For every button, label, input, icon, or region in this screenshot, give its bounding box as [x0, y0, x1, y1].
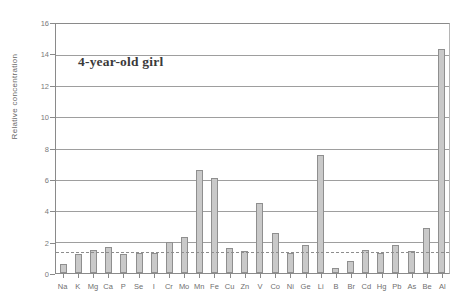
x-axis-tick-mark [230, 274, 231, 278]
x-axis-tick-slot [207, 274, 222, 280]
bar-slot [192, 24, 207, 273]
x-axis-tick-label: V [252, 282, 267, 298]
x-axis-tick-label: Mg [85, 282, 100, 298]
bar-P [120, 254, 127, 273]
bar-slot [71, 24, 86, 273]
x-axis-tick-mark [93, 274, 94, 278]
x-axis-tick-slot [177, 274, 192, 280]
x-axis-tick-slot [101, 274, 116, 280]
x-axis-tick-label: Al [435, 282, 450, 298]
x-axis-tick-label: Br [344, 282, 359, 298]
bar-Hg [377, 253, 384, 273]
y-axis-tick-label: 12 [27, 81, 49, 90]
x-axis-tick-label: Be [420, 282, 435, 298]
x-axis-tick-slot [161, 274, 176, 280]
x-axis-tick-slot [131, 274, 146, 280]
bar-Mn [196, 170, 203, 273]
x-axis-tick-slot [116, 274, 131, 280]
x-axis-tick-mark [427, 274, 428, 278]
bar-slot [343, 24, 358, 273]
bar-V [256, 203, 263, 273]
x-axis-tick-slot [146, 274, 161, 280]
bar-slot [298, 24, 313, 273]
x-axis-tick-slot [70, 274, 85, 280]
x-axis-tick-label: Ni [283, 282, 298, 298]
x-axis-tick-label: Co [268, 282, 283, 298]
y-axis-tick-label: 14 [27, 50, 49, 59]
x-axis-tick-label: Mn [192, 282, 207, 298]
bar-slot [237, 24, 252, 273]
bar-Br [347, 261, 354, 273]
bar-slot [434, 24, 449, 273]
bar-slot [283, 24, 298, 273]
x-axis-tick-label: Ca [101, 282, 116, 298]
bar-slot [147, 24, 162, 273]
x-axis-tick-label: Cu [222, 282, 237, 298]
bar-slot [328, 24, 343, 273]
y-axis-tick-label: 6 [27, 175, 49, 184]
x-axis-tick-mark [321, 274, 322, 278]
x-axis-tick-slot [359, 274, 374, 280]
x-axis-tick-mark [169, 274, 170, 278]
x-axis-tick-mark [123, 274, 124, 278]
bar-slot [222, 24, 237, 273]
x-axis-tick-label: Li [313, 282, 328, 298]
x-axis-tick-mark [366, 274, 367, 278]
x-axis-tick-slot [344, 274, 359, 280]
x-axis-tick-label: Na [55, 282, 70, 298]
bar-Cr [166, 242, 173, 273]
x-axis-tick-label: Se [131, 282, 146, 298]
x-axis-tick-mark [397, 274, 398, 278]
x-axis-tick-label: I [146, 282, 161, 298]
x-axis-tick-slot [420, 274, 435, 280]
y-axis-tick-label: 16 [27, 19, 49, 28]
x-axis-tick-mark [154, 274, 155, 278]
x-axis-tick-mark [214, 274, 215, 278]
reference-line [56, 252, 449, 253]
bar-Se [136, 253, 143, 273]
bar-slot [404, 24, 419, 273]
x-axis-tick-label: B [328, 282, 343, 298]
bar-Al [438, 49, 445, 273]
x-axis-tick-slot [313, 274, 328, 280]
x-axis-tick-mark [260, 274, 261, 278]
x-axis-tick-slot [389, 274, 404, 280]
bar-slot [162, 24, 177, 273]
x-axis-tick-label: Mo [177, 282, 192, 298]
x-axis-tick-mark [275, 274, 276, 278]
bar-slot [252, 24, 267, 273]
bar-Ge [302, 245, 309, 273]
bar-slot [358, 24, 373, 273]
bar-Fe [211, 178, 218, 273]
x-axis-tick-slot [328, 274, 343, 280]
x-axis-tick-mark [199, 274, 200, 278]
bar-slot [388, 24, 403, 273]
bar-Be [423, 228, 430, 273]
bar-slot [101, 24, 116, 273]
bar-Li [317, 155, 324, 273]
bar-Na [60, 264, 67, 273]
x-axis-tick-marks [55, 274, 450, 280]
chart-figure: Relative concentration 0246810121416 NaK… [0, 0, 463, 306]
x-axis-tick-slot [435, 274, 450, 280]
bar-As [408, 251, 415, 273]
x-axis-tick-label: P [116, 282, 131, 298]
bar-slot [313, 24, 328, 273]
bar-Pb [392, 245, 399, 273]
bar-slot [86, 24, 101, 273]
x-axis-tick-mark [139, 274, 140, 278]
bar-slot [373, 24, 388, 273]
x-axis-tick-slot [85, 274, 100, 280]
x-axis-tick-slot [298, 274, 313, 280]
plot-area [55, 23, 450, 274]
x-axis-tick-label: Cd [359, 282, 374, 298]
x-axis-tick-mark [245, 274, 246, 278]
bar-Ca [105, 247, 112, 273]
x-axis-tick-mark [306, 274, 307, 278]
y-axis-tick-label: 10 [27, 113, 49, 122]
bar-B [332, 268, 339, 273]
x-axis-tick-mark [78, 274, 79, 278]
bar-Ni [287, 253, 294, 273]
x-axis-tick-mark [63, 274, 64, 278]
x-axis-tick-mark [108, 274, 109, 278]
